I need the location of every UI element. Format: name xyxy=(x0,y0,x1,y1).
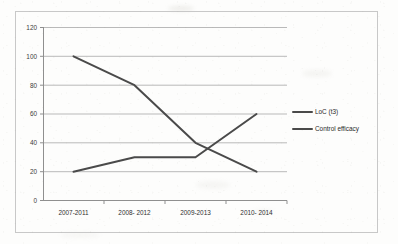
y-axis-ticks xyxy=(40,28,44,201)
y-tick-label-80: 80 xyxy=(30,82,38,89)
gridlines xyxy=(43,28,287,172)
y-tick-label-40: 40 xyxy=(30,139,38,146)
legend-item-loc-t3: LoC (t3) xyxy=(293,108,338,116)
y-tick-label-0: 0 xyxy=(33,197,37,204)
chart-border xyxy=(16,12,378,233)
line-chart: 120 100 80 60 40 20 0 2007-2011 2008- 20… xyxy=(0,0,398,244)
y-tick-label-60: 60 xyxy=(30,110,38,117)
chart-legend: LoC (t3) Control efficacy xyxy=(293,108,360,133)
y-tick-label-20: 20 xyxy=(30,168,38,175)
legend-item-control-efficacy: Control efficacy xyxy=(293,125,360,133)
x-axis-ticks xyxy=(104,201,287,205)
chart-figure: 120 100 80 60 40 20 0 2007-2011 2008- 20… xyxy=(0,0,398,244)
x-category-label-3: 2010- 2014 xyxy=(240,209,273,216)
y-tick-label-100: 100 xyxy=(26,53,37,60)
x-category-label-1: 2008- 2012 xyxy=(118,209,151,216)
y-tick-label-120: 120 xyxy=(26,24,37,31)
x-category-label-2: 2009-2013 xyxy=(180,209,211,216)
legend-label-loc-t3: LoC (t3) xyxy=(315,108,338,116)
legend-label-control-efficacy: Control efficacy xyxy=(315,125,360,133)
x-category-label-0: 2007-2011 xyxy=(58,209,89,216)
